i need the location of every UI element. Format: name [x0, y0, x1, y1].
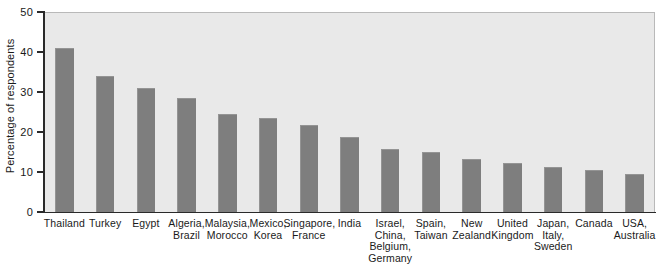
- bar-chart: Percentage of respondents 50403020100 Th…: [0, 0, 663, 266]
- y-tick-mark: [37, 131, 43, 132]
- y-tick-label: 50: [3, 7, 33, 18]
- bar: [381, 149, 400, 212]
- y-tick-label: 10: [3, 167, 33, 178]
- y-tick-mark: [37, 171, 43, 172]
- x-axis-category-labels: ThailandTurkeyEgyptAlgeria, BrazilMalays…: [44, 218, 655, 266]
- bar: [340, 137, 359, 212]
- bar: [422, 152, 441, 212]
- bar: [55, 48, 74, 212]
- y-tick-mark: [37, 91, 43, 92]
- bar: [300, 125, 319, 212]
- y-tick-label: 30: [3, 87, 33, 98]
- bars-layer: [44, 12, 655, 212]
- y-axis-title: Percentage of respondents: [2, 0, 18, 212]
- y-tick-label: 40: [3, 47, 33, 58]
- bar: [625, 174, 644, 212]
- bar: [259, 118, 278, 212]
- x-axis-category-label: USA, Australia: [609, 218, 660, 241]
- bar: [137, 88, 156, 212]
- bar: [96, 76, 115, 212]
- bar: [544, 167, 563, 212]
- y-tick-mark: [37, 51, 43, 52]
- bar: [462, 159, 481, 212]
- bar: [585, 170, 604, 212]
- bar: [218, 114, 237, 212]
- y-tick-label: 0: [3, 207, 33, 218]
- bar: [503, 163, 522, 212]
- bar: [177, 98, 196, 212]
- y-tick-mark: [37, 11, 43, 12]
- y-tick-mark: [37, 211, 43, 212]
- y-tick-label: 20: [3, 127, 33, 138]
